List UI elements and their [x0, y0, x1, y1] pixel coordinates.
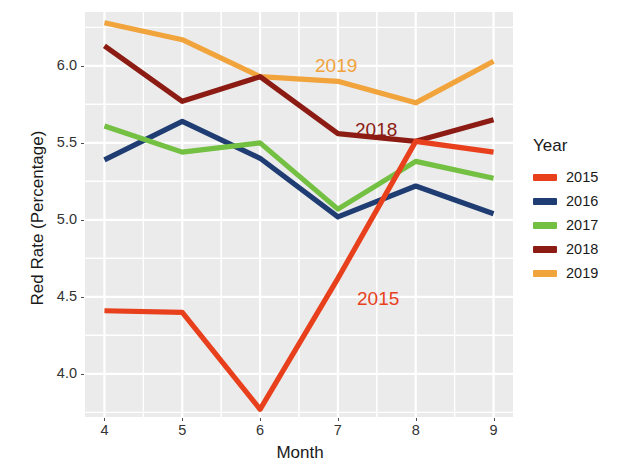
x-tick-mark: [260, 418, 261, 421]
y-tick-mark: [81, 220, 84, 221]
legend-key-icon: [533, 246, 557, 253]
legend-item-label: 2015: [566, 169, 598, 185]
legend-item-2017[interactable]: 2017: [533, 214, 598, 236]
legend-key-icon: [533, 198, 557, 205]
y-tick-mark: [81, 66, 84, 67]
y-axis-title: Red Rate (Percentage): [26, 48, 50, 388]
x-tick-label: 4: [89, 422, 119, 438]
gridlines: [85, 12, 513, 417]
legend-item-label: 2019: [566, 265, 598, 281]
x-tick-mark: [338, 418, 339, 421]
x-tick-mark: [104, 418, 105, 421]
x-tick-label: 6: [245, 422, 275, 438]
legend-item-2018[interactable]: 2018: [533, 238, 598, 260]
x-tick-mark: [416, 418, 417, 421]
x-axis-title: Month: [180, 443, 420, 463]
x-tick-label: 5: [167, 422, 197, 438]
series-annotation-2015: 2015: [357, 288, 399, 310]
y-tick-mark: [81, 143, 84, 144]
plot-svg: [0, 0, 626, 473]
series-annotation-2019: 2019: [315, 55, 357, 77]
x-tick-label: 7: [323, 422, 353, 438]
legend-key-icon: [533, 270, 557, 277]
legend-item-label: 2018: [566, 241, 598, 257]
legend-item-2019[interactable]: 2019: [533, 262, 598, 284]
x-tick-mark: [182, 418, 183, 421]
y-tick-mark: [81, 374, 84, 375]
legend-key-icon: [533, 222, 557, 229]
x-tick-mark: [494, 418, 495, 421]
legend-item-2016[interactable]: 2016: [533, 190, 598, 212]
legend-title: Year: [533, 136, 567, 156]
legend-item-label: 2016: [566, 193, 598, 209]
legend-key-icon: [533, 174, 557, 181]
legend-item-2015[interactable]: 2015: [533, 166, 598, 188]
x-tick-label: 8: [401, 422, 431, 438]
chart-container: 4.04.55.05.56.0456789 201920182015 Red R…: [0, 0, 626, 473]
y-tick-mark: [81, 297, 84, 298]
series-annotation-2018: 2018: [355, 119, 397, 141]
x-tick-label: 9: [479, 422, 509, 438]
legend-item-label: 2017: [566, 217, 598, 233]
